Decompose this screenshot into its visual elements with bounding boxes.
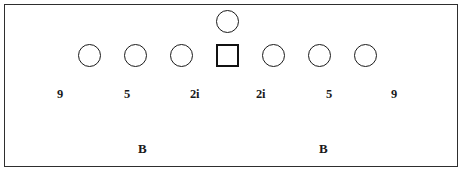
diagram-node-5	[262, 44, 285, 67]
index-label-1: 9	[57, 88, 63, 101]
diagram-node-1	[78, 44, 101, 67]
dynkin-diagram-figure: 9 5 2i 2i 5 9 B B	[0, 0, 467, 174]
diagram-node-2	[124, 44, 147, 67]
diagram-node-4-square	[216, 44, 239, 67]
diagram-node-3	[170, 44, 193, 67]
index-label-5: 5	[326, 88, 332, 101]
block-label-left: B	[138, 142, 147, 155]
diagram-node-branch	[216, 10, 239, 33]
index-label-2: 5	[124, 88, 130, 101]
diagram-node-6	[308, 44, 331, 67]
block-label-right: B	[319, 142, 328, 155]
diagram-node-7	[354, 44, 377, 67]
index-label-3: 2i	[190, 88, 199, 101]
index-label-4: 2i	[256, 88, 265, 101]
index-label-6: 9	[391, 88, 397, 101]
